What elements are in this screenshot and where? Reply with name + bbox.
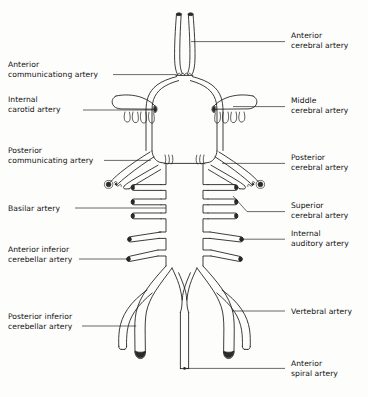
leader-superior-cerebral (233, 196, 285, 212)
circle-of-willis-diagram: Anterior communicationg artery Internal … (0, 0, 368, 397)
basilar-bifurcation (152, 151, 217, 163)
circle-of-willis-ring (146, 77, 223, 151)
lenticulostriate-branches-left (124, 112, 154, 123)
label-basilar-artery: Basilar artery (8, 204, 60, 214)
label-line-2: cerebral artery (291, 106, 348, 116)
label-line-2: spiral artery (291, 369, 338, 379)
label-line-1: Basilar artery (8, 204, 60, 214)
label-line-2: cerebral artery (291, 41, 348, 51)
anterior-inferior-cerebellar-artery-right-vessel (211, 250, 242, 261)
label-line-2: cerebral artery (291, 163, 348, 173)
anterior-cerebral-artery-left-vessel (175, 13, 183, 75)
label-line-2: carotid artery (8, 105, 61, 115)
posterior-cerebral-artery-right-vessel (215, 152, 265, 188)
lenticulostriate-branches-right (215, 112, 245, 123)
anterior-inferior-cerebellar-artery-left-vessel (127, 250, 158, 261)
label-line-2: auditory artery (291, 239, 349, 249)
label-internal-carotid-artery: Internal carotid artery (8, 95, 61, 114)
label-line-1: Anterior inferior (8, 245, 72, 255)
label-anterior-communicating-artery: Anterior communicationg artery (8, 60, 98, 79)
label-anterior-inferior-cerebellar-artery: Anterior inferior cerebellar artery (8, 245, 72, 264)
pontine-branches-right (208, 185, 238, 219)
label-line-1: Middle (291, 96, 348, 106)
vertebral-artery-left-vessel (135, 266, 172, 359)
label-posterior-communicating-artery: Posterior communicating artery (8, 146, 93, 165)
posterior-communicating-junction-right (196, 155, 205, 164)
label-line-1: Internal (291, 229, 349, 239)
label-line-2: cerebellar artery (8, 322, 72, 332)
label-line-1: Posterior inferior (8, 312, 72, 322)
label-line-1: Anterior (291, 359, 338, 369)
label-posterior-inferior-cerebellar-artery: Posterior inferior cerebellar artery (8, 312, 72, 331)
superior-cerebellar-artery-right-vessel (208, 165, 245, 189)
posterior-communicating-junction-left (164, 155, 173, 164)
label-internal-auditory-artery: Internal auditory artery (291, 229, 349, 248)
label-line-1: Vertebral artery (291, 307, 352, 317)
anterior-cerebral-artery-right-vessel (188, 13, 196, 75)
label-vertebral-artery: Vertebral artery (291, 307, 352, 317)
label-line-1: Anterior (291, 31, 348, 41)
label-posterior-cerebral-artery: Posterior cerebral artery (291, 153, 348, 172)
label-line-1: Posterior (291, 153, 348, 163)
superior-cerebellar-artery-left-vessel (123, 165, 160, 189)
label-line-2: cerebellar artery (8, 255, 72, 265)
label-line-2: communicating artery (8, 156, 93, 166)
internal-auditory-artery-left-vessel (128, 232, 161, 242)
label-line-1: Anterior (8, 60, 98, 70)
label-line-2: cerebral artery (291, 211, 348, 221)
label-middle-cerebral-artery: Middle cerebral artery (291, 96, 348, 115)
internal-auditory-artery-right-vessel (210, 232, 243, 242)
label-anterior-spiral-artery: Anterior spiral artery (291, 359, 338, 378)
anterior-communicating-artery-vessel (176, 73, 193, 75)
internal-carotid-artery-right-vessel (212, 95, 257, 113)
label-superior-cerebral-artery: Superior cerebral artery (291, 201, 348, 220)
label-line-1: Posterior (8, 146, 93, 156)
label-anterior-cerebral-artery: Anterior cerebral artery (291, 31, 348, 50)
label-line-1: Superior (291, 201, 348, 211)
posterior-cerebral-artery-left-vessel (104, 152, 154, 188)
pontine-branches-left (131, 185, 161, 219)
vertebral-artery-right-vessel (197, 266, 234, 359)
label-line-2: communicationg artery (8, 70, 98, 80)
label-line-1: Internal (8, 95, 61, 105)
anterior-spinal-artery-vessel (172, 268, 197, 370)
basilar-artery-vessel (158, 163, 211, 266)
